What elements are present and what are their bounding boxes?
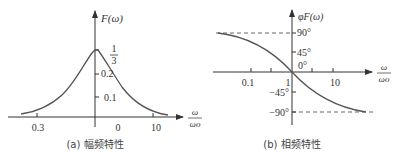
x-axis-label-denominator: ωo — [379, 74, 390, 84]
phase-chart: φF(ω) 90° 45° 0° −45° −90° 0.1 1 10 ω ωo… — [213, 10, 391, 150]
x-label-10: 10 — [330, 77, 340, 88]
x-axis-label-denominator: ωo — [190, 119, 201, 129]
x-label-10: 10 — [151, 122, 161, 133]
phase-caption: (b) 相频特性 — [263, 138, 320, 150]
x-axis-label-numerator: ω — [192, 107, 198, 117]
x-label-0.3: 0.3 — [32, 122, 45, 133]
y-label-0: 0° — [298, 60, 307, 71]
x-label-1: 1 — [286, 77, 291, 88]
x-label-0.1: 0.1 — [242, 77, 255, 88]
y-label-90: 90° — [297, 27, 311, 38]
peak-numerator: 1 — [112, 43, 117, 54]
amplitude-chart: F(ω) 1 3 0.2 0.1 0.3 0 10 ω ωo (a) 幅频特性 — [8, 11, 202, 150]
tick-label-0.1: 0.1 — [104, 92, 117, 103]
frequency-response-figure: F(ω) 1 3 0.2 0.1 0.3 0 10 ω ωo (a) 幅频特性 — [0, 0, 395, 157]
peak-denominator: 3 — [112, 55, 117, 66]
y-label-45: 45° — [297, 47, 311, 58]
y-label-minus-45: −45° — [269, 87, 289, 98]
phase-y-label: φF(ω) — [298, 11, 324, 23]
y-label-minus-90: −90° — [269, 107, 289, 118]
x-axis-label-numerator: ω — [381, 62, 387, 72]
tick-label-0.2: 0.2 — [101, 68, 114, 79]
amplitude-caption: (a) 幅频特性 — [66, 138, 123, 150]
amplitude-y-label: F(ω) — [100, 12, 123, 25]
x-label-0: 0 — [116, 122, 121, 133]
